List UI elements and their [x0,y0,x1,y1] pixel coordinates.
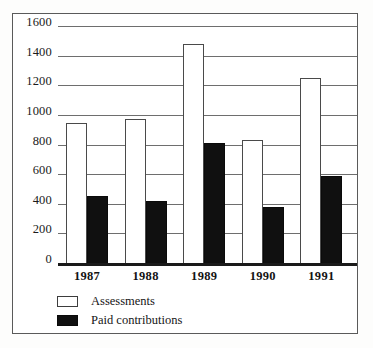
bar-1989-assessments [183,44,204,263]
y-axis-tick-label: 1000 [26,104,52,119]
y-axis-tick-label: 800 [33,134,52,149]
bar-chart-figure: 02004006008001000120014001600 1987198819… [0,0,373,348]
legend-label-paid-contributions: Paid contributions [91,313,182,328]
bar-1987-paid-contributions [87,196,108,263]
legend-label-assessments: Assessments [91,294,155,309]
x-axis-tick-label: 1988 [125,269,167,284]
y-axis-tick-label: 200 [33,223,52,238]
bar-1987-assessments [66,123,87,263]
bar-group-1991: 1991 [300,26,342,263]
bar-1990-assessments [242,140,263,263]
y-axis-tick-label: 1400 [26,45,52,60]
bar-1989-paid-contributions [204,143,225,263]
bar-1988-assessments [125,119,146,263]
x-axis-tick-label: 1987 [66,269,108,284]
y-axis-tick-label: 1600 [26,15,52,30]
plot-area: 02004006008001000120014001600 1987198819… [58,26,357,263]
y-axis-tick-label: 0 [46,252,52,267]
x-axis-tick-label: 1991 [300,269,342,284]
bar-group-1988: 1988 [125,26,167,263]
bar-group-1987: 1987 [66,26,108,263]
filled-square-swatch-icon [57,315,78,326]
x-axis-baseline [58,263,357,266]
y-axis-tick-label: 1200 [26,74,52,89]
bar-1990-paid-contributions [263,207,284,263]
legend-item-paid-contributions: Paid contributions [57,311,182,330]
x-axis-tick-label: 1989 [183,269,225,284]
y-axis-tick-label: 600 [33,163,52,178]
hollow-square-swatch-icon [57,296,78,307]
bar-group-1989: 1989 [183,26,225,263]
bar-1988-paid-contributions [146,201,167,263]
legend-item-assessments: Assessments [57,292,182,311]
bar-group-1990: 1990 [242,26,284,263]
x-axis-tick-label: 1990 [242,269,284,284]
bar-1991-assessments [300,78,321,263]
chart-legend: Assessments Paid contributions [57,292,182,330]
bar-1991-paid-contributions [321,176,342,263]
y-axis-tick-label: 400 [33,193,52,208]
